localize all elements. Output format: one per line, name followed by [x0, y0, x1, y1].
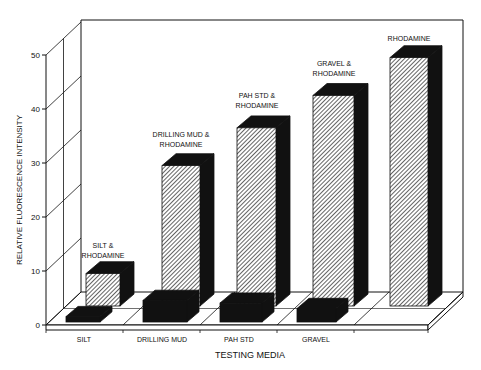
bar-annotation: SILT &	[93, 242, 114, 249]
bar-annotation: RHODAMINE	[160, 141, 203, 148]
hatched-bar-side	[200, 154, 214, 306]
hatched-bar-front	[86, 274, 120, 306]
floor-edge	[46, 325, 428, 330]
x-axis-label: TESTING MEDIA	[215, 350, 285, 360]
y-tick-label: 30	[31, 159, 40, 168]
solid-bar-front	[143, 300, 187, 322]
hatched-bar-front	[162, 166, 200, 306]
hatched-bar-front	[390, 58, 428, 306]
x-category-label: SILT	[77, 336, 92, 343]
x-category-label: GRAVEL	[302, 336, 330, 343]
y-axis-label: RELATIVE FLUORESCENCE INTENSITY	[15, 114, 24, 265]
bar-annotation: RHODAMINE	[313, 70, 356, 77]
y-tick-label: 0	[36, 321, 41, 330]
hatched-bar-side	[354, 84, 368, 307]
solid-bar-front	[220, 303, 262, 322]
hatched-bar-side	[276, 116, 290, 306]
bar-annotation: GRAVEL &	[317, 60, 352, 67]
y-axis-ticks: 01020304050	[31, 22, 81, 330]
solid-bar-front	[297, 309, 336, 323]
bar-annotation: RHODAMINE	[236, 102, 279, 109]
y-tick-label: 20	[31, 213, 40, 222]
bar-annotation: PAH STD &	[239, 92, 276, 99]
hatched-bar-front	[237, 128, 276, 306]
hatched-bar-side	[428, 46, 442, 306]
y-tick-label: 50	[31, 51, 40, 60]
y-tick-label: 10	[31, 267, 40, 276]
x-axis-categories: SILTDRILLING MUDPAH STDGRAVEL	[77, 336, 330, 343]
bar-annotation: DRILLING MUD &	[153, 131, 210, 138]
bar-annotation: RHODAMINE	[82, 252, 125, 259]
y-tick-label: 40	[31, 105, 40, 114]
back-row-bars	[86, 46, 442, 306]
bar-annotation: RHODAMINE	[388, 35, 431, 42]
x-category-label: DRILLING MUD	[137, 336, 187, 343]
solid-bar-front	[66, 317, 100, 322]
x-category-label: PAH STD	[224, 336, 254, 343]
hatched-bar-front	[313, 95, 354, 306]
bar-chart-3d: 01020304050 SILT &RHODAMINEDRILLING MUD …	[0, 0, 481, 370]
